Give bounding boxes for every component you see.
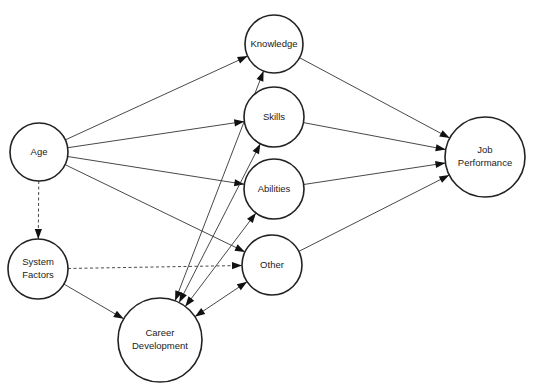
- career-performance-diagram: AgeSystemFactorsCareerDevelopmentKnowled…: [0, 0, 536, 392]
- edges-layer: [35, 56, 450, 319]
- arrowhead-icon: [35, 229, 42, 239]
- edge-skills-to-job-performance: [303, 123, 445, 152]
- node-label: Other: [260, 259, 284, 270]
- arrowhead-icon: [113, 311, 123, 319]
- nodes-layer: AgeSystemFactorsCareerDevelopmentKnowled…: [8, 15, 525, 382]
- node-label: Age: [31, 146, 48, 157]
- node-skills: Skills: [244, 87, 304, 147]
- arrowhead-icon: [247, 213, 256, 223]
- edge-line: [299, 175, 450, 251]
- node-other: Other: [242, 235, 302, 295]
- arrowhead-icon: [439, 175, 450, 183]
- edge-line: [65, 56, 247, 140]
- node-label: Performance: [458, 157, 512, 168]
- node-label: System: [22, 256, 54, 267]
- node-career-development: CareerDevelopment: [118, 298, 202, 382]
- arrowhead-icon: [257, 71, 264, 82]
- node-label: Knowledge: [250, 38, 297, 49]
- node-label: Job: [477, 144, 492, 155]
- edge-age-to-abilities: [68, 157, 245, 187]
- node-label: Skills: [263, 111, 285, 122]
- arrowhead-icon: [435, 161, 445, 168]
- arrowhead-icon: [195, 308, 205, 317]
- edge-line: [64, 284, 124, 319]
- arrowhead-icon: [185, 296, 194, 306]
- edge-age-to-skills: [68, 119, 245, 147]
- edge-age-to-other: [65, 165, 245, 252]
- node-label: Career: [145, 327, 174, 338]
- edge-abilities-to-job-performance: [304, 161, 446, 185]
- edge-line: [68, 121, 245, 147]
- arrowhead-icon: [179, 292, 187, 303]
- node-label: Factors: [22, 269, 54, 280]
- edge-system-factors-to-career-development: [64, 284, 124, 319]
- edge-line: [68, 157, 245, 185]
- edge-other-to-job-performance: [299, 175, 450, 251]
- edge-age-to-system-factors: [35, 181, 42, 239]
- node-abilities: Abilities: [244, 159, 304, 219]
- edge-line: [303, 123, 445, 150]
- node-job-performance: JobPerformance: [445, 117, 525, 197]
- arrowhead-icon: [237, 282, 247, 291]
- edge-line: [304, 163, 446, 185]
- arrowhead-icon: [435, 144, 445, 151]
- arrowhead-icon: [234, 244, 245, 252]
- node-system-factors: SystemFactors: [8, 239, 68, 299]
- node-label: Abilities: [258, 183, 291, 194]
- node-label: Development: [132, 340, 188, 351]
- arrowhead-icon: [232, 262, 242, 269]
- arrowhead-icon: [253, 144, 261, 155]
- node-knowledge: Knowledge: [245, 15, 303, 73]
- arrowhead-icon: [439, 130, 450, 138]
- node-age: Age: [10, 123, 68, 181]
- edge-age-to-knowledge: [65, 56, 247, 140]
- edge-line: [65, 165, 245, 252]
- edge-other-to-career-development: [195, 282, 247, 317]
- arrowhead-icon: [237, 56, 248, 63]
